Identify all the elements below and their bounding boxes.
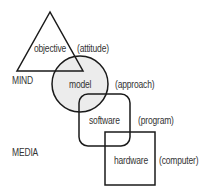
attitude-annotation: (attitude) xyxy=(77,44,109,54)
mind-label: MIND xyxy=(12,76,33,86)
model-label: model xyxy=(69,80,91,90)
media-label: MEDIA xyxy=(12,148,38,158)
approach-annotation: (approach) xyxy=(115,80,154,90)
computer-annotation: (computer) xyxy=(159,156,198,166)
software-label: software xyxy=(89,116,120,126)
objective-label: objective xyxy=(34,44,66,54)
program-annotation: (program) xyxy=(138,116,174,126)
hardware-label: hardware xyxy=(114,156,148,166)
